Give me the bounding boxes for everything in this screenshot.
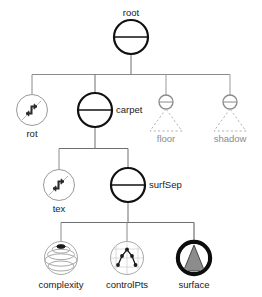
node-label-rot: rot <box>26 129 37 139</box>
node-label-surfsep: surfSep <box>149 180 182 190</box>
sphere-complexity-icon <box>45 242 78 275</box>
node-rot[interactable] <box>17 95 48 126</box>
control-points-grid-icon <box>110 242 145 275</box>
surface-cone-icon <box>178 242 210 274</box>
node-label-root: root <box>123 8 139 18</box>
node-tex[interactable] <box>44 170 75 201</box>
node-label-surface: surface <box>178 280 209 290</box>
node-label-tex: tex <box>53 204 66 214</box>
node-label-complexity: complexity <box>39 280 84 290</box>
node-controlpts[interactable] <box>110 242 145 275</box>
scene-graph-canvas <box>0 0 262 297</box>
node-floor[interactable] <box>150 95 182 131</box>
node-surface[interactable] <box>178 242 210 274</box>
node-root[interactable] <box>114 20 148 54</box>
edge-group-root-children <box>32 55 230 95</box>
node-carpet[interactable] <box>78 93 112 127</box>
collapsed-subtree-triangle-icon <box>150 109 182 131</box>
node-complexity[interactable] <box>45 242 78 275</box>
node-surfsep[interactable] <box>111 168 145 202</box>
collapsed-subtree-triangle-icon <box>214 109 246 131</box>
node-label-carpet: carpet <box>116 105 142 115</box>
node-shadow[interactable] <box>214 95 246 131</box>
node-label-shadow: shadow <box>214 134 247 144</box>
node-label-controlpts: controlPts <box>106 280 148 290</box>
edge-group-surfsep-children <box>61 202 194 244</box>
node-label-floor: floor <box>157 134 175 144</box>
scene-graph-diagram: root rot carpet floor shadow tex surfSep… <box>0 0 262 297</box>
edge-group-carpet-children <box>59 127 128 170</box>
